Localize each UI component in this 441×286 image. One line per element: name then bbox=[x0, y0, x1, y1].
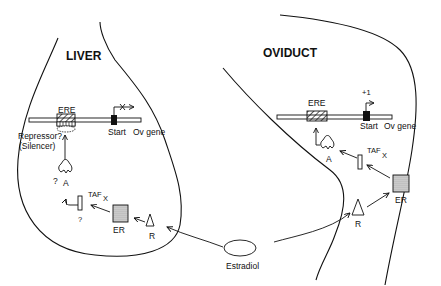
oviduct-a-label: A bbox=[326, 154, 332, 164]
liver-taf-label: TAF bbox=[88, 190, 102, 199]
oviduct-activator-a-icon bbox=[321, 136, 334, 150]
oviduct-taf-label: TAF bbox=[367, 146, 381, 155]
oviduct-er-label: ER bbox=[395, 195, 407, 205]
liver-er-box bbox=[113, 205, 128, 222]
oviduct-dna-bar bbox=[277, 115, 392, 119]
oviduct-ere-box bbox=[307, 111, 327, 121]
liver-r-label: R bbox=[149, 231, 155, 241]
liver-ere-label: ERE bbox=[58, 105, 76, 115]
estradiol-gene-regulation-diagram: LIVER ERE Start Ov gene Repressor? (Sile… bbox=[0, 0, 441, 286]
oviduct-er-box bbox=[393, 175, 409, 192]
oviduct-r-label: R bbox=[355, 219, 361, 229]
oviduct-taf-box bbox=[358, 155, 362, 169]
liver-start-label: Start bbox=[108, 127, 127, 137]
liver-taf-box bbox=[78, 196, 82, 210]
estradiol-to-liver-arrow bbox=[167, 227, 223, 247]
liver-cell: LIVER ERE Start Ov gene Repressor? (Sile… bbox=[18, 22, 182, 256]
liver-dna-bar bbox=[29, 118, 141, 122]
liver-activator-a-icon bbox=[59, 160, 72, 174]
oviduct-title: OVIDUCT bbox=[263, 46, 318, 60]
oviduct-receptor-r-triangle bbox=[352, 199, 364, 215]
repressor-label: Repressor? bbox=[18, 131, 62, 141]
oviduct-transcription-arrow bbox=[366, 103, 374, 111]
estradiol-ellipse bbox=[224, 240, 256, 256]
liver-er-label: ER bbox=[113, 225, 125, 235]
oviduct-ere-label: ERE bbox=[308, 98, 326, 108]
liver-gene-label: Ov gene bbox=[133, 127, 165, 137]
liver-a-question: ? bbox=[53, 176, 58, 186]
oviduct-x-label: X bbox=[382, 151, 387, 160]
liver-taf-question: ? bbox=[78, 215, 82, 224]
oviduct-start-box bbox=[363, 111, 370, 121]
liver-a-label: A bbox=[63, 178, 69, 188]
liver-x-label: X bbox=[103, 194, 108, 203]
liver-start-box bbox=[111, 115, 117, 125]
plus-one-label: +1 bbox=[362, 88, 371, 97]
liver-receptor-r-triangle bbox=[146, 214, 154, 226]
oviduct-gene-label: Ov gene bbox=[384, 121, 416, 131]
silencer-label: (Silencer) bbox=[19, 141, 56, 151]
oviduct-start-label: Start bbox=[360, 121, 379, 131]
estradiol-to-oviduct-arrow bbox=[274, 213, 350, 242]
estradiol-label: Estradiol bbox=[226, 261, 259, 271]
liver-title: LIVER bbox=[66, 49, 102, 63]
